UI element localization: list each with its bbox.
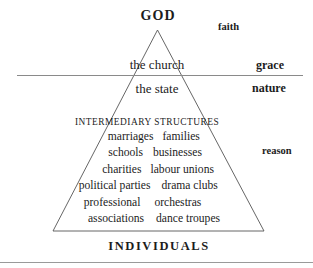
structure-item: marriages xyxy=(74,130,154,143)
side-label-nature: nature xyxy=(252,82,286,94)
structure-item: labour unions xyxy=(142,163,255,176)
structure-item: orchestras xyxy=(140,196,261,209)
structure-item: families xyxy=(154,130,245,143)
side-label-faith: faith xyxy=(218,22,239,33)
structure-item: associations xyxy=(58,212,144,225)
structure-row: political parties drama clubs xyxy=(57,179,261,195)
tier-label-church: the church xyxy=(130,58,185,71)
structure-row: charities labour unions xyxy=(57,163,261,179)
base-label-individuals: INDIVIDUALS xyxy=(108,240,210,253)
apex-label-god: GOD xyxy=(140,9,175,23)
structure-item: schools xyxy=(69,146,143,159)
structure-item: drama clubs xyxy=(151,179,260,192)
structure-item: professional xyxy=(57,196,140,209)
structure-item: businesses xyxy=(143,146,249,159)
side-label-reason: reason xyxy=(262,146,292,157)
intermediary-structures-caption: INTERMEDIARY STRUCTURES xyxy=(75,118,219,127)
structure-row: schools businesses xyxy=(57,146,261,162)
structure-item: dance troupes xyxy=(144,212,260,225)
structure-item: charities xyxy=(64,163,142,176)
structure-item: political parties xyxy=(59,179,151,192)
structure-row: associations dance troupes xyxy=(57,212,261,228)
structure-row: professional orchestras xyxy=(57,196,261,212)
structure-row: marriages families xyxy=(57,130,261,146)
intermediary-structures-list: marriages families schools businesses ch… xyxy=(57,130,261,228)
side-label-grace: grace xyxy=(256,59,284,71)
pyramid-diagram: GOD the church the state INTERMEDIARY ST… xyxy=(0,0,313,268)
tier-label-state: the state xyxy=(136,82,179,95)
